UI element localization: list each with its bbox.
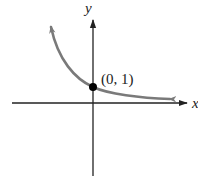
intercept-point [89,83,97,91]
graph: (0, 1) y x [0,0,198,176]
x-axis-label: x [191,95,198,111]
exponential-curve [51,27,170,99]
y-axis-label: y [83,0,92,16]
point-label: (0, 1) [101,71,134,88]
